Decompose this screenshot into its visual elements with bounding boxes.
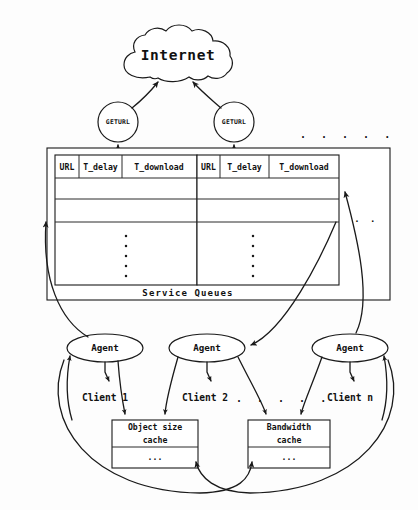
queue1-col-tdownload: T_download (134, 162, 183, 172)
object-size-cache: Object size cache ... (112, 420, 198, 468)
object-size-cache-line1: Object size (128, 422, 182, 432)
arrow-return-to-agent1 (67, 356, 72, 420)
bandwidth-cache-rows: ... (282, 452, 297, 462)
queues-ellipsis: . . (354, 214, 377, 224)
arrow-agent2-to-object-cache (165, 357, 178, 414)
fetcher-label-2: GETURL (222, 118, 246, 126)
agent-label-3: Agent (336, 342, 364, 353)
arrow-agent3-to-bandwidth-cache (301, 357, 322, 414)
agent-label-2: Agent (193, 342, 221, 353)
cloud-label: Internet (141, 47, 216, 63)
agent-node-1[interactable]: Agent (67, 334, 143, 362)
arrow-agent1-to-object-cache (118, 361, 125, 414)
arrow-agent1-to-client1 (105, 362, 109, 381)
object-size-cache-line2: cache (143, 435, 168, 445)
arrow-return-to-agent3 (382, 356, 387, 420)
object-size-cache-rows: ... (148, 452, 163, 462)
arrow-agent3-to-clientn (350, 362, 354, 381)
client-label-2: Client 2 (182, 392, 228, 403)
queue1-col-tdelay: T_delay (83, 162, 118, 172)
architecture-diagram: Internet GETURL GETURL . . . . . URL (0, 0, 418, 510)
arrow-fetcher2-to-internet (193, 82, 221, 108)
diagram-canvas: Internet GETURL GETURL . . . . . URL (0, 0, 418, 510)
agent-node-2[interactable]: Agent (169, 334, 245, 362)
service-queue-2: URL T_delay T_download (197, 155, 339, 285)
queue2-col-url: URL (201, 162, 216, 172)
clients-ellipsis: . . . . . (236, 393, 331, 404)
agent-label-1: Agent (91, 342, 119, 353)
arrow-agent2-to-client2 (207, 362, 211, 381)
fetcher-label-1: GETURL (106, 118, 130, 126)
fetchers-ellipsis: . . . . . (300, 129, 395, 140)
arrow-fetcher1-to-internet (132, 82, 158, 108)
client-label-n: Client n (327, 392, 373, 403)
bandwidth-cache: Bandwidth cache ... (248, 420, 330, 468)
queue1-col-url: URL (60, 162, 75, 172)
internet-cloud: Internet (124, 25, 232, 82)
arrow-agent2-to-bandwidth-cache (238, 357, 266, 414)
queue2-col-tdownload: T_download (279, 162, 328, 172)
bandwidth-cache-line1: Bandwidth (267, 422, 311, 432)
queue2-col-tdelay: T_delay (227, 162, 262, 172)
agent-node-3[interactable]: Agent (312, 334, 388, 362)
service-queue-1: URL T_delay T_download (55, 155, 197, 285)
bandwidth-cache-line2: cache (277, 435, 302, 445)
fetcher-node-2[interactable]: GETURL (214, 102, 254, 142)
service-queues-caption: Service Queues (142, 288, 233, 298)
